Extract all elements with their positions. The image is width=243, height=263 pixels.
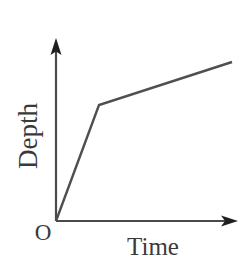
depth-curve <box>56 62 232 221</box>
origin-label: O <box>35 220 52 246</box>
x-axis-label: Time <box>127 233 179 261</box>
y-axis-label: Depth <box>13 103 44 169</box>
depth-vs-time-graph: Depth Time O <box>0 0 243 263</box>
